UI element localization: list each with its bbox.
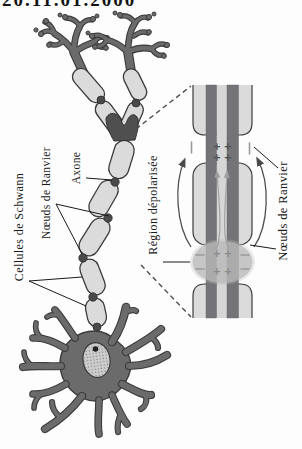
- nucleolus: [93, 346, 98, 351]
- label-axone: Axone: [70, 152, 82, 185]
- plus-sign: +: [213, 152, 221, 163]
- plus-sign: +: [224, 141, 232, 152]
- inset-axon-magnified: + + + + + + + + Région dépolarisée Nœuds…: [146, 85, 290, 318]
- leader-noeuds-right-lower: [250, 245, 276, 249]
- leader-axone: [86, 178, 112, 180]
- plus-sign: +: [213, 248, 221, 259]
- axon-branch-junction: [106, 113, 138, 141]
- label-noeuds-de-ranvier-left: Nœuds de Ranvier: [40, 147, 52, 239]
- plus-sign: +: [224, 266, 232, 277]
- label-cellules-de-schwann: Cellules de Schwann: [12, 173, 26, 281]
- neuron-saltatory-conduction-diagram: 20.11.01.2000: [0, 0, 302, 449]
- myelin-segment: [106, 138, 137, 181]
- zoom-dashed-line-bottom: [141, 265, 191, 317]
- plus-sign: +: [213, 141, 221, 152]
- label-noeuds-de-ranvier-right: Nœuds de Ranvier: [276, 161, 290, 261]
- plus-sign: +: [213, 266, 221, 277]
- terminal-arborization-right: [93, 16, 166, 71]
- figure-page: 20.11.01.2000: [0, 0, 302, 449]
- leader-noeuds-right-upper: [254, 147, 278, 168]
- cropped-header-text: 20.11.01.2000: [2, 0, 136, 10]
- leader-cellules: [29, 277, 86, 306]
- plus-sign: +: [224, 152, 232, 163]
- current-arrow-left: [178, 161, 191, 247]
- label-region-depolarisee: Région dépolarisée: [146, 155, 160, 255]
- myelin-segment: [121, 66, 150, 103]
- node1-charges: + + + +: [192, 141, 250, 163]
- depolarized-region-ellipse: [193, 241, 253, 283]
- current-arrow-right: [254, 160, 266, 247]
- plus-sign: +: [224, 248, 232, 259]
